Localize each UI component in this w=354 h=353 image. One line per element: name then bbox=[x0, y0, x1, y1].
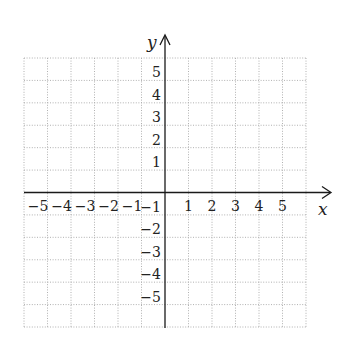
y-tick-label: 4 bbox=[152, 87, 161, 103]
x-tick-label: 5 bbox=[278, 198, 287, 214]
y-axis-label: y bbox=[146, 32, 157, 52]
x-tick-label: 2 bbox=[208, 198, 217, 214]
y-tick-label: −2 bbox=[140, 221, 161, 237]
y-tick-label: 2 bbox=[152, 132, 161, 148]
x-axis-label: x bbox=[318, 199, 328, 219]
x-tick-label: −4 bbox=[51, 198, 72, 214]
x-tick-label: −5 bbox=[28, 198, 49, 214]
y-tick-label: 3 bbox=[152, 109, 161, 125]
x-tick-label: −3 bbox=[75, 198, 96, 214]
y-tick-label: −3 bbox=[140, 244, 161, 260]
y-tick-label: −1 bbox=[140, 199, 161, 215]
y-tick-label: −5 bbox=[140, 289, 161, 305]
x-tick-label: 3 bbox=[231, 198, 240, 214]
coordinate-plane: −5−4−3−2−112345 −5−4−3−2−112345 x y bbox=[0, 0, 354, 353]
x-tick-label: 1 bbox=[184, 198, 193, 214]
y-tick-label: 5 bbox=[152, 64, 161, 80]
y-tick-label: −4 bbox=[140, 266, 161, 282]
y-tick-labels: −5−4−3−2−112345 bbox=[140, 64, 161, 304]
y-tick-label: 1 bbox=[152, 154, 161, 170]
x-tick-label: −2 bbox=[98, 198, 119, 214]
x-tick-label: 4 bbox=[255, 198, 264, 214]
